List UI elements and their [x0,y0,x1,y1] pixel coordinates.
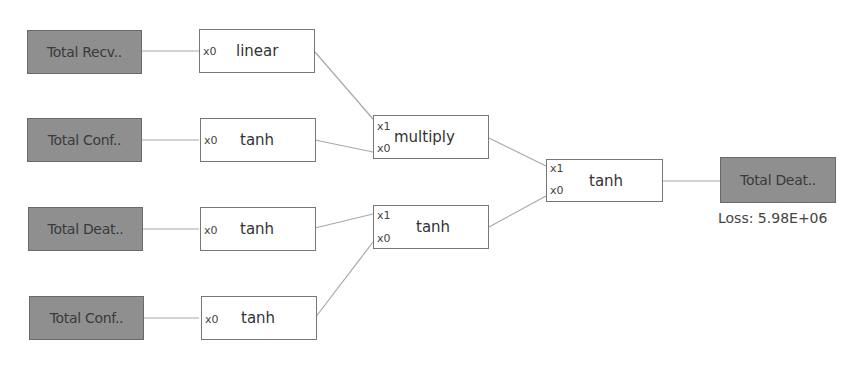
output-node-label: Total Deat.. [740,172,816,188]
port-x0: x0 [377,232,391,245]
input-node-label: Total Conf.. [48,132,122,148]
port-x0: x0 [204,224,218,237]
input-node-label: Total Recv.. [47,44,122,60]
input-node-total-recovered[interactable]: Total Recv.. [27,30,142,74]
port-x0: x0 [203,45,217,58]
edge-f2-g1 [315,140,373,152]
port-x0: x0 [204,134,218,147]
edge-f4-g2 [315,242,373,318]
port-x0: x0 [550,184,564,197]
input-node-label: Total Conf.. [50,310,124,326]
port-x1: x1 [550,162,564,175]
function-label: tanh [416,218,450,236]
function-label: multiply [394,128,455,146]
function-node-tanh-3[interactable]: x0 tanh [201,296,317,340]
function-label: tanh [241,309,275,327]
port-x1: x1 [377,209,391,222]
function-label: tanh [240,131,274,149]
edge-f3-g2 [315,214,373,228]
input-node-total-confirmed-2[interactable]: Total Conf.. [29,296,144,340]
port-x0: x0 [377,142,391,155]
port-x1: x1 [377,120,391,133]
edge-f1-g1 [315,52,373,119]
input-node-total-confirmed[interactable]: Total Conf.. [27,118,142,162]
function-node-multiply[interactable]: x1 x0 multiply [373,115,489,159]
edge-g2-h1 [489,196,546,227]
function-label: linear [236,42,278,60]
input-node-label: Total Deat.. [48,221,124,237]
function-node-tanh-4[interactable]: x1 x0 tanh [373,205,489,249]
port-x0: x0 [205,313,219,326]
function-node-tanh-2[interactable]: x0 tanh [200,207,316,251]
loss-label: Loss: 5.98E+06 [718,210,827,226]
function-node-tanh-5[interactable]: x1 x0 tanh [546,159,663,202]
function-node-tanh-1[interactable]: x0 tanh [200,118,316,162]
function-label: tanh [240,220,274,238]
function-node-linear[interactable]: x0 linear [199,29,315,73]
output-node-total-deaths[interactable]: Total Deat.. [720,157,836,203]
function-label: tanh [589,172,623,190]
edge-g1-h1 [489,138,546,166]
input-node-total-deaths[interactable]: Total Deat.. [28,207,143,251]
